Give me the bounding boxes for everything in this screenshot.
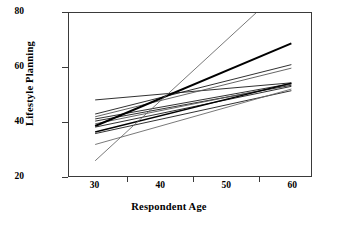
y-axis-label: Lifestyle Planning (24, 4, 35, 164)
plot-area (68, 12, 312, 177)
x-tick-label: 50 (211, 181, 241, 191)
chart-figure: Lifestyle Planning 20406080 30405060 Res… (0, 0, 338, 226)
y-tick-mark (62, 177, 68, 178)
y-tick-label: 80 (0, 7, 24, 17)
x-tick-mark (127, 177, 128, 182)
regression-line (95, 83, 291, 132)
y-tick-label: 20 (0, 172, 24, 182)
x-tick-mark (193, 177, 194, 182)
x-tick-label: 30 (79, 181, 109, 191)
y-tick-label: 60 (0, 62, 24, 72)
y-tick-label: 40 (0, 117, 24, 127)
x-tick-mark (259, 177, 260, 182)
regression-line (95, 13, 291, 161)
regression-line (95, 43, 291, 126)
x-tick-label: 60 (277, 181, 307, 191)
regression-lines-svg (69, 13, 311, 176)
x-tick-label: 40 (145, 181, 175, 191)
x-axis-label: Respondent Age (0, 201, 338, 212)
